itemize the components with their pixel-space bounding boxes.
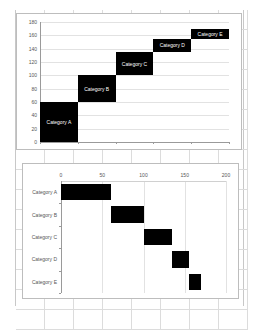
x-axis-line [61, 181, 226, 182]
horizontal-gridline [40, 75, 229, 76]
x-tick-mark [40, 142, 41, 144]
x-tick-mark [78, 142, 79, 144]
x-tick-label: 200 [216, 172, 236, 178]
grid-cell [190, 310, 219, 330]
bar-category-a: Category A [40, 102, 78, 142]
y-tick-mark [59, 248, 61, 249]
y-tick-label: 180 [17, 19, 37, 25]
y-tick-mark [59, 293, 61, 294]
category-label: Category E [17, 279, 57, 285]
category-label: Category A [17, 189, 57, 195]
category-label: Category C [17, 234, 57, 240]
gantt-bar-chart[interactable]: 050100150200 Category ACategory BCategor… [22, 163, 239, 299]
x-tick-label: 150 [175, 172, 195, 178]
horizontal-gridline [40, 22, 229, 23]
bar-category-c [144, 229, 173, 245]
y-tick-label: 60 [17, 99, 37, 105]
category-label: Category B [17, 212, 57, 218]
y-tick-label: 100 [17, 72, 37, 78]
bar-category-c: Category C [116, 52, 154, 75]
bar-category-b: Category B [78, 75, 116, 102]
x-tick-label: 100 [134, 172, 154, 178]
y-tick-mark [59, 226, 61, 227]
bar-category-e [189, 274, 201, 290]
x-axis-line [40, 142, 229, 143]
y-tick-label: 140 [17, 46, 37, 52]
bar-category-e: Category E [191, 29, 229, 39]
x-tick-mark [229, 142, 230, 144]
x-tick-mark [116, 142, 117, 144]
stacked-column-chart[interactable]: 020406080100120140160180 Category ACateg… [16, 13, 242, 150]
bar-category-a [61, 184, 111, 200]
x-tick-label: 50 [92, 172, 112, 178]
x-tick-mark [153, 142, 154, 144]
y-tick-label: 20 [17, 126, 37, 132]
y-tick-mark [59, 271, 61, 272]
y-tick-label: 120 [17, 59, 37, 65]
y-tick-label: 160 [17, 32, 37, 38]
horizontal-gridline [40, 89, 229, 90]
grid-cell [74, 310, 103, 330]
y-tick-label: 40 [17, 112, 37, 118]
y-tick-mark [59, 203, 61, 204]
x-tick-mark [191, 142, 192, 144]
x-tick-label: 0 [51, 172, 71, 178]
y-tick-label: 0 [17, 139, 37, 145]
bar-category-b [111, 206, 144, 222]
y-tick-label: 80 [17, 86, 37, 92]
grid-cell [45, 310, 74, 330]
grid-cell [219, 310, 248, 330]
grid-cell [103, 310, 132, 330]
grid-cell [16, 310, 45, 330]
bar-category-d: Category D [153, 39, 191, 52]
grid-cell [161, 310, 190, 330]
vertical-gridline [226, 181, 227, 293]
grid-cell [132, 310, 161, 330]
horizontal-gridline [40, 49, 229, 50]
vertical-gridline [185, 181, 186, 293]
bar-category-d [172, 251, 189, 267]
category-label: Category D [17, 256, 57, 262]
